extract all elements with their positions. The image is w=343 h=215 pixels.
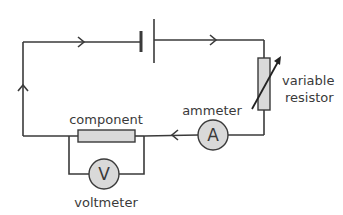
ammeter-label: ammeter (182, 103, 242, 118)
voltmeter-symbol: V (98, 164, 110, 184)
component-label: component (69, 112, 143, 127)
voltmeter-label: voltmeter (74, 195, 138, 210)
variable-resistor: variable resistor (252, 56, 334, 110)
voltmeter: V voltmeter (74, 159, 138, 210)
ammeter-symbol: A (207, 125, 219, 145)
resistor-body (258, 58, 270, 110)
circuit-diagram: variable resistor A ammeter component V … (0, 0, 343, 215)
component: component (69, 112, 143, 142)
cell-symbol (141, 19, 154, 63)
variable-resistor-label-2: resistor (285, 90, 334, 105)
ammeter: A ammeter (182, 103, 242, 150)
variable-resistor-label-1: variable (282, 73, 334, 88)
component-body (78, 130, 135, 142)
